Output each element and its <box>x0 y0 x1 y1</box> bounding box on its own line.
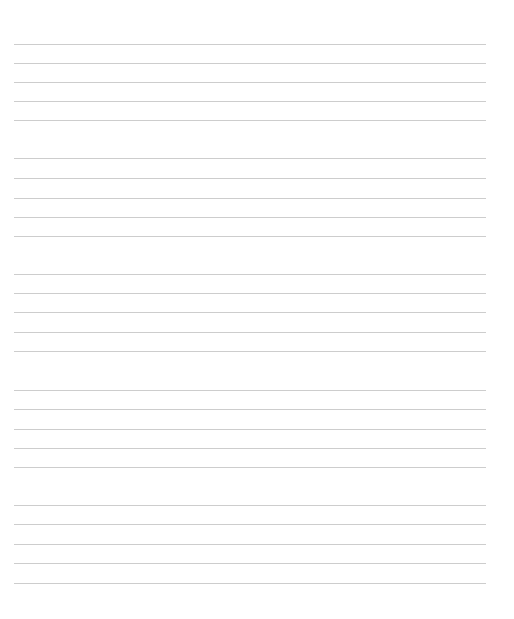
staff-line <box>14 505 486 506</box>
staff-line <box>14 101 486 102</box>
staff-line <box>14 429 486 430</box>
staff-line <box>14 198 486 199</box>
staff-line <box>14 583 486 584</box>
staff-line <box>14 120 486 121</box>
staff-line <box>14 63 486 64</box>
staff-line <box>14 467 486 468</box>
staff-line <box>14 274 486 275</box>
staff-1 <box>14 44 486 122</box>
staff-4 <box>14 390 486 468</box>
staff-line <box>14 448 486 449</box>
staff-5 <box>14 505 486 583</box>
staff-line <box>14 158 486 159</box>
staff-2 <box>14 158 486 236</box>
staff-line <box>14 217 486 218</box>
staff-line <box>14 82 486 83</box>
staff-line <box>14 236 486 237</box>
staff-line <box>14 312 486 313</box>
staff-line <box>14 178 486 179</box>
staff-line <box>14 409 486 410</box>
staff-3 <box>14 274 486 352</box>
staff-line <box>14 563 486 564</box>
staff-line <box>14 351 486 352</box>
staff-line <box>14 390 486 391</box>
staff-line <box>14 524 486 525</box>
staff-line <box>14 44 486 45</box>
staff-line <box>14 293 486 294</box>
manuscript-page <box>0 0 514 619</box>
staff-line <box>14 544 486 545</box>
staff-line <box>14 332 486 333</box>
